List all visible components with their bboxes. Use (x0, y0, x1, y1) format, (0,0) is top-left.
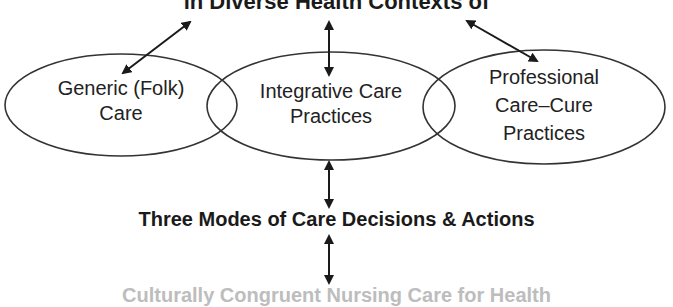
care-modes-title: Three Modes of Care Decisions & Actions (0, 208, 673, 231)
bottom-outcome-text: Culturally Congruent Nursing Care for He… (0, 284, 673, 307)
integrative-care-line2: Practices (231, 104, 431, 129)
arrow-to-professional-icon (467, 21, 537, 61)
integrative-care-line1: Integrative Care (231, 79, 431, 104)
professional-care-label: Professional Care–Cure Practices (444, 63, 644, 147)
generic-care-line1: Generic (Folk) (21, 76, 221, 101)
integrative-care-label: Integrative Care Practices (231, 79, 431, 129)
generic-care-label: Generic (Folk) Care (21, 76, 221, 126)
generic-care-line2: Care (21, 101, 221, 126)
top-title: in Diverse Health Contexts of (0, 0, 673, 15)
professional-care-line3: Practices (444, 119, 644, 147)
professional-care-line2: Care–Cure (444, 91, 644, 119)
professional-care-line1: Professional (444, 63, 644, 91)
arrow-to-generic-icon (123, 22, 190, 73)
